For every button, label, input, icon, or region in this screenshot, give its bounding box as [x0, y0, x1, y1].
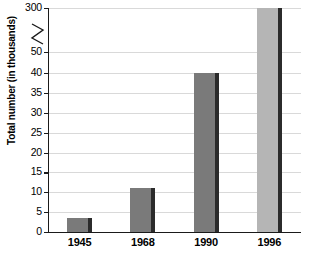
bar-face [67, 218, 88, 232]
bar-edge [278, 8, 282, 232]
y-axis-tick-label: 20 [2, 146, 42, 158]
bar-1996 [257, 8, 282, 232]
bar-face [194, 73, 215, 232]
y-axis-tick-label: 50 [2, 45, 42, 57]
y-axis-tick-label: 10 [2, 185, 42, 197]
y-axis-tick-label: 15 [2, 165, 42, 177]
bar-face [130, 188, 151, 232]
bars [48, 8, 301, 232]
bar-edge [151, 188, 155, 232]
bar-face [257, 8, 278, 232]
bar-edge [88, 218, 92, 232]
y-axis-tick-label: 300 [2, 1, 42, 13]
y-axis-tick-label: 25 [2, 126, 42, 138]
y-axis-tick-label: 0 [2, 225, 42, 237]
y-axis-tick-label: 40 [2, 66, 42, 78]
bar-1945 [67, 218, 92, 232]
y-axis-tick-label: 35 [2, 86, 42, 98]
bar-edge [215, 73, 219, 232]
y-axis-tick-label: 5 [2, 205, 42, 217]
bar-chart: Total number (in thousands) 051015202530… [0, 0, 309, 258]
x-axis-tick-label: 1996 [229, 236, 309, 248]
bar-1968 [130, 188, 155, 232]
y-axis-tick-label: 30 [2, 106, 42, 118]
x-axis-line [48, 232, 301, 233]
bar-1990 [194, 73, 219, 232]
